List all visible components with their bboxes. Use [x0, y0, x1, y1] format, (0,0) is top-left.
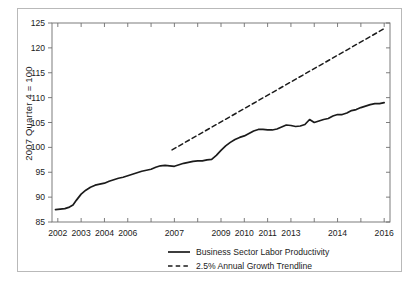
y-tick-label: 105 [31, 118, 46, 128]
x-tick-label: 2007 [165, 228, 184, 238]
x-tick-label: 2013 [281, 228, 300, 238]
legend-label: Business Sector Labor Productivity [196, 247, 330, 257]
x-axis-ticks: 2002200320042006200720092010201120132014… [48, 23, 394, 238]
y-tick-label: 85 [35, 217, 45, 227]
y-tick-label: 110 [31, 93, 45, 103]
y-tick-label: 95 [35, 167, 45, 177]
y-tick-label: 115 [31, 68, 45, 78]
y-axis-ticks: 859095100105110115120125 [31, 18, 390, 227]
chart-figure: 2007 Quarter 4 = 100 8590951001051101151… [0, 0, 419, 289]
y-tick-label: 120 [31, 43, 46, 53]
legend-label: 2.5% Annual Growth Trendline [196, 261, 312, 271]
chart-legend: Business Sector Labor Productivity2.5% A… [168, 247, 330, 271]
x-tick-label: 2009 [211, 228, 230, 238]
x-tick-label: 2014 [328, 228, 347, 238]
x-tick-label: 2011 [258, 228, 277, 238]
series-line [172, 28, 385, 150]
series-line [56, 103, 385, 210]
series-layer [56, 28, 386, 210]
x-tick-label: 2002 [48, 228, 67, 238]
y-tick-label: 125 [31, 18, 46, 28]
y-tick-label: 90 [35, 192, 45, 202]
x-tick-label: 2016 [375, 228, 394, 238]
x-tick-label: 2006 [118, 228, 137, 238]
y-tick-label: 100 [31, 142, 46, 152]
x-tick-label: 2010 [235, 228, 254, 238]
x-tick-label: 2004 [95, 228, 114, 238]
line-chart: 859095100105110115120125 200220032004200… [0, 0, 419, 289]
x-tick-label: 2003 [72, 228, 91, 238]
